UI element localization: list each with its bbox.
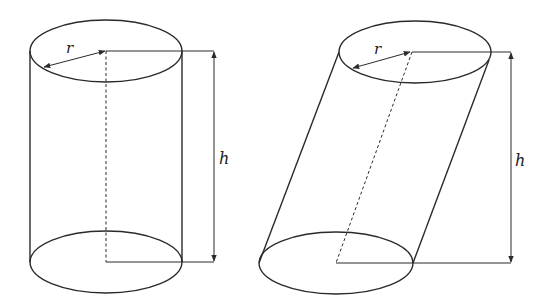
oblique-cylinder-radius-label: r — [374, 40, 382, 58]
oblique-cylinder-left-side — [259, 52, 339, 263]
oblique-cylinder: r h — [259, 21, 525, 294]
oblique-cylinder-axis — [336, 52, 412, 263]
cylinders-diagram: r h r h — [0, 0, 549, 307]
oblique-cylinder-height-label: h — [515, 151, 525, 170]
right-cylinder-radius-arrow — [44, 51, 105, 67]
oblique-cylinder-right-side — [413, 60, 489, 263]
right-cylinder: r h — [30, 20, 229, 293]
oblique-cylinder-radius-arrow — [353, 52, 410, 68]
right-cylinder-radius-label: r — [66, 39, 74, 57]
right-cylinder-height-label: h — [219, 149, 229, 168]
